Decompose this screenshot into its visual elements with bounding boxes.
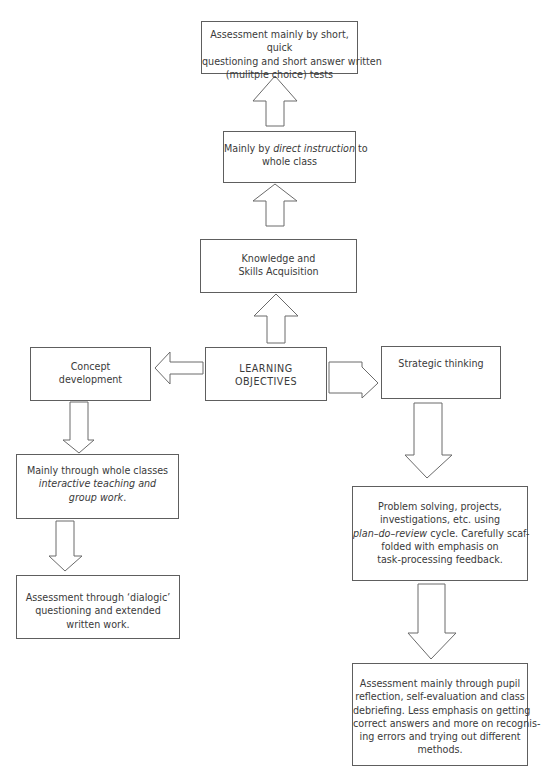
text-line: (mulitple choice) tests bbox=[208, 68, 351, 81]
emphasis-text: group work bbox=[69, 492, 123, 503]
text-span: to bbox=[355, 143, 368, 154]
text-line: LEARNING bbox=[212, 362, 320, 375]
text-line: Mainly through whole classes bbox=[23, 464, 172, 477]
learning-objectives-node: LEARNING OBJECTIVES bbox=[205, 347, 327, 401]
right-method-box: Problem solving, projects, investigation… bbox=[352, 486, 528, 581]
knowledge-skills-node: Knowledge and Skills Acquisition bbox=[200, 239, 357, 293]
arrow-up-icon bbox=[254, 294, 298, 343]
up-method-box: Mainly by direct instruction to whole cl… bbox=[223, 131, 356, 183]
text-line: OBJECTIVES bbox=[212, 375, 320, 388]
text-line: written work. bbox=[23, 618, 173, 631]
arrow-down-icon bbox=[63, 402, 94, 453]
text-line: ing errors and trying out different bbox=[353, 730, 527, 743]
emphasis-text: direct instruction bbox=[273, 143, 355, 154]
text-line: task-processing feedback. bbox=[359, 553, 521, 566]
text-line: development bbox=[37, 373, 144, 386]
text-line: Assessment mainly by short, quick bbox=[208, 28, 351, 55]
text-line: Assessment through ‘dialogic’ bbox=[23, 591, 173, 604]
text-line: reflection, self-evaluation and class bbox=[353, 690, 527, 703]
text-line: Assessment mainly through pupil bbox=[353, 677, 527, 690]
text-line: investigations, etc. using bbox=[359, 513, 521, 526]
arrow-up-icon bbox=[253, 184, 297, 226]
text-line: questioning and short answer written bbox=[202, 55, 357, 68]
text-span: cycle. Carefully scaf- bbox=[427, 528, 529, 539]
arrow-down-icon bbox=[49, 521, 82, 571]
up-assessment-box: Assessment mainly by short, quick questi… bbox=[201, 21, 358, 74]
text-line: Concept bbox=[37, 360, 144, 373]
strategic-thinking-node: Strategic thinking bbox=[381, 346, 501, 399]
text-line: Knowledge and bbox=[207, 252, 350, 265]
arrow-down-icon bbox=[405, 403, 452, 478]
text-span: . bbox=[123, 492, 126, 503]
text-line: whole class bbox=[230, 155, 349, 168]
text-line: Problem solving, projects, bbox=[359, 500, 521, 513]
text-line: Skills Acquisition bbox=[207, 265, 350, 278]
arrow-right-icon bbox=[329, 362, 378, 398]
text-line: Strategic thinking bbox=[388, 357, 494, 370]
text-span: Mainly by bbox=[224, 143, 273, 154]
left-method-box: Mainly through whole classes interactive… bbox=[16, 454, 179, 519]
emphasis-text: interactive teaching and bbox=[23, 477, 172, 490]
arrow-up-icon bbox=[253, 76, 297, 126]
concept-development-node: Concept development bbox=[30, 347, 151, 401]
left-assessment-box: Assessment through ‘dialogic’ questionin… bbox=[16, 575, 180, 639]
text-line: group work. bbox=[23, 491, 172, 504]
text-line: plan–do–review cycle. Carefully scaf- bbox=[353, 527, 527, 540]
arrow-left-icon bbox=[155, 352, 203, 384]
emphasis-text: plan–do–review bbox=[353, 528, 427, 539]
text-line: methods. bbox=[359, 743, 521, 756]
text-line: questioning and extended bbox=[23, 604, 173, 617]
text-line: folded with emphasis on bbox=[359, 540, 521, 553]
right-assessment-box: Assessment mainly through pupil reflecti… bbox=[352, 663, 528, 766]
arrow-down-icon bbox=[408, 584, 456, 659]
text-line: debriefing. Less emphasis on getting bbox=[353, 704, 527, 717]
text-line: correct answers and more on recognis- bbox=[353, 717, 527, 730]
text-line: Mainly by direct instruction to bbox=[224, 142, 355, 155]
